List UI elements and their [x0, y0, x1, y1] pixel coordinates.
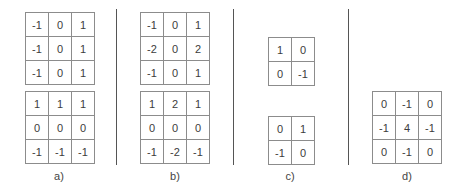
- divider: [348, 9, 349, 165]
- cell: -2: [141, 37, 164, 61]
- cell: 0: [419, 140, 442, 164]
- cell: 0: [49, 37, 72, 61]
- kernel-d-laplacian: 0 -1 0 -1 4 -1 0 -1 0: [372, 91, 442, 164]
- cell: 0: [49, 13, 72, 37]
- cell: -1: [269, 141, 292, 165]
- cell: 1: [187, 13, 210, 37]
- cell: 0: [419, 92, 442, 116]
- kernel-a-horizontal: 1 1 1 0 0 0 -1 -1 -1: [25, 91, 95, 164]
- kernel-a-vertical: -1 0 1 -1 0 1 -1 0 1: [25, 12, 95, 85]
- cell: -1: [419, 116, 442, 140]
- kernel-c-diagonal-1: 1 0 0 -1: [268, 37, 315, 86]
- cell: 1: [72, 92, 95, 116]
- cell: -1: [72, 140, 95, 164]
- cell: 1: [187, 61, 210, 85]
- cell: 0: [164, 61, 187, 85]
- cell: -1: [396, 140, 419, 164]
- cell: 0: [26, 116, 49, 140]
- panel-label-c: c): [275, 170, 305, 182]
- cell: 1: [49, 92, 72, 116]
- divider: [233, 9, 234, 165]
- cell: -2: [164, 140, 187, 164]
- cell: 0: [373, 140, 396, 164]
- cell: 1: [187, 92, 210, 116]
- cell: 0: [72, 116, 95, 140]
- cell: 1: [292, 117, 315, 141]
- cell: -1: [141, 140, 164, 164]
- cell: 0: [164, 116, 187, 140]
- cell: 0: [49, 61, 72, 85]
- cell: 0: [141, 116, 164, 140]
- cell: 0: [292, 141, 315, 165]
- cell: 4: [396, 116, 419, 140]
- cell: -1: [141, 13, 164, 37]
- cell: 1: [72, 13, 95, 37]
- cell: -1: [49, 140, 72, 164]
- cell: 0: [269, 117, 292, 141]
- cell: 0: [292, 38, 315, 62]
- cell: 0: [269, 62, 292, 86]
- cell: -1: [396, 92, 419, 116]
- cell: 0: [49, 116, 72, 140]
- cell: 0: [164, 37, 187, 61]
- cell: -1: [187, 140, 210, 164]
- cell: 0: [164, 13, 187, 37]
- cell: 1: [141, 92, 164, 116]
- cell: -1: [26, 13, 49, 37]
- kernel-b-horizontal: 1 2 1 0 0 0 -1 -2 -1: [140, 91, 210, 164]
- cell: -1: [141, 61, 164, 85]
- divider: [116, 9, 117, 165]
- cell: -1: [26, 140, 49, 164]
- cell: -1: [26, 61, 49, 85]
- panel-label-d: d): [392, 170, 422, 182]
- cell: 0: [373, 92, 396, 116]
- kernel-b-vertical: -1 0 1 -2 0 2 -1 0 1: [140, 12, 210, 85]
- cell: -1: [292, 62, 315, 86]
- cell: -1: [373, 116, 396, 140]
- cell: 0: [187, 116, 210, 140]
- cell: -1: [26, 37, 49, 61]
- cell: 1: [72, 37, 95, 61]
- cell: 1: [26, 92, 49, 116]
- cell: 2: [164, 92, 187, 116]
- panel-label-b: b): [160, 170, 190, 182]
- cell: 1: [72, 61, 95, 85]
- panel-label-a: a): [44, 170, 74, 182]
- cell: 1: [269, 38, 292, 62]
- kernel-c-diagonal-2: 0 1 -1 0: [268, 116, 315, 165]
- cell: 2: [187, 37, 210, 61]
